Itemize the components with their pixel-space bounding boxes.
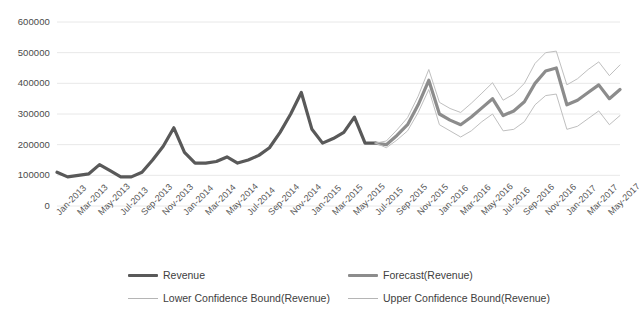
y-axis-tick-label: 600000 [0, 16, 50, 27]
legend-item-revenue[interactable]: Revenue [128, 270, 205, 281]
y-axis-tick-label: 500000 [0, 47, 50, 58]
series-line-revenue [57, 93, 376, 177]
legend-label-lower-bound: Lower Confidence Bound(Revenue) [163, 293, 330, 304]
legend-swatch-upper-bound-icon [348, 298, 378, 299]
legend-label-upper-bound: Upper Confidence Bound(Revenue) [383, 293, 550, 304]
y-axis-tick-label: 0 [0, 200, 50, 211]
chart-legend: Revenue Forecast(Revenue) Lower Confiden… [0, 262, 629, 312]
y-axis-tick-label: 200000 [0, 139, 50, 150]
y-axis-tick-label: 400000 [0, 77, 50, 88]
y-axis-tick-label: 300000 [0, 108, 50, 119]
legend-item-forecast[interactable]: Forecast(Revenue) [348, 270, 473, 281]
legend-swatch-revenue-icon [128, 274, 158, 277]
y-axis-tick-label: 100000 [0, 169, 50, 180]
legend-label-forecast: Forecast(Revenue) [383, 270, 473, 281]
legend-swatch-forecast-icon [348, 274, 378, 277]
legend-item-upper-bound[interactable]: Upper Confidence Bound(Revenue) [348, 293, 550, 304]
series-line-forecast-revenue [376, 68, 620, 145]
legend-label-revenue: Revenue [163, 270, 205, 281]
legend-item-lower-bound[interactable]: Lower Confidence Bound(Revenue) [128, 293, 330, 304]
legend-swatch-lower-bound-icon [128, 298, 158, 299]
